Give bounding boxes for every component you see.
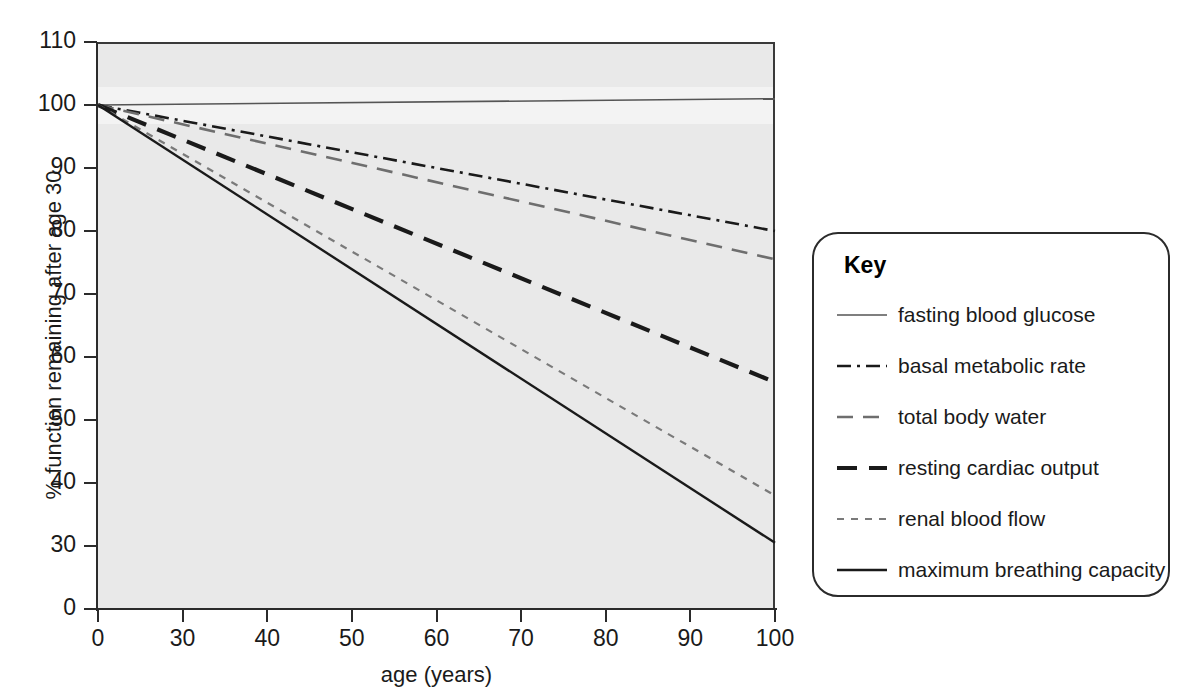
legend-line-swatch-icon <box>836 458 888 478</box>
y-tick-mark <box>84 41 97 43</box>
legend-line-swatch-icon <box>836 509 888 529</box>
legend-items: fasting blood glucosebasal metabolic rat… <box>836 289 1166 595</box>
y-tick-mark <box>84 356 97 358</box>
legend-item[interactable]: resting cardiac output <box>836 442 1166 493</box>
legend-item[interactable]: total body water <box>836 391 1166 442</box>
y-tick-mark <box>84 293 97 295</box>
legend-item-label: total body water <box>898 406 1046 428</box>
legend-item-label: maximum breathing capacity <box>898 559 1165 581</box>
x-axis-title: age (years) <box>98 662 775 688</box>
y-tick-mark <box>84 545 97 547</box>
y-tick-mark <box>84 419 97 421</box>
x-tick-label: 30 <box>143 626 223 651</box>
x-tick-label: 40 <box>227 626 307 651</box>
series-lines <box>98 42 775 609</box>
y-tick-mark <box>84 482 97 484</box>
x-tick-label: 100 <box>735 626 815 651</box>
x-tick-label: 90 <box>650 626 730 651</box>
y-tick-mark <box>84 230 97 232</box>
x-tick-mark <box>605 609 607 622</box>
x-tick-label: 60 <box>397 626 477 651</box>
x-tick-label: 80 <box>566 626 646 651</box>
x-tick-mark <box>520 609 522 622</box>
x-tick-mark <box>266 609 268 622</box>
legend-line-swatch-icon <box>836 305 888 325</box>
legend-item-label: resting cardiac output <box>898 457 1099 479</box>
x-tick-mark <box>689 609 691 622</box>
legend-title: Key <box>844 252 886 279</box>
x-tick-mark <box>182 609 184 622</box>
plot-area <box>98 42 775 609</box>
figure-container: 030405060708090100110 030405060708090100… <box>0 0 1197 696</box>
x-tick-mark <box>97 609 99 622</box>
legend-item-label: fasting blood glucose <box>898 304 1095 326</box>
x-tick-mark <box>436 609 438 622</box>
legend-item[interactable]: basal metabolic rate <box>836 340 1166 391</box>
legend-item-label: renal blood flow <box>898 508 1045 530</box>
legend-item[interactable]: renal blood flow <box>836 493 1166 544</box>
legend-line-swatch-icon <box>836 407 888 427</box>
legend-line-swatch-icon <box>836 356 888 376</box>
x-tick-mark <box>774 609 776 622</box>
y-tick-mark <box>84 608 97 610</box>
x-tick-label: 50 <box>312 626 392 651</box>
series-line-4 <box>98 105 775 496</box>
x-tick-label: 70 <box>481 626 561 651</box>
legend-line-swatch-icon <box>836 560 888 580</box>
y-axis-title: % function remaining after age 30 <box>41 15 67 655</box>
legend-item-label: basal metabolic rate <box>898 355 1086 377</box>
y-axis-line <box>96 42 98 611</box>
y-tick-mark <box>84 104 97 106</box>
legend-box: Key fasting blood glucosebasal metabolic… <box>812 232 1170 597</box>
series-line-2 <box>98 105 775 259</box>
series-line-5 <box>98 105 775 543</box>
x-tick-label: 0 <box>58 626 138 651</box>
series-line-0 <box>98 99 775 105</box>
series-line-3 <box>98 105 775 382</box>
y-tick-mark <box>84 167 97 169</box>
series-line-1 <box>98 105 775 231</box>
legend-item[interactable]: fasting blood glucose <box>836 289 1166 340</box>
x-tick-mark <box>351 609 353 622</box>
legend-item[interactable]: maximum breathing capacity <box>836 544 1166 595</box>
